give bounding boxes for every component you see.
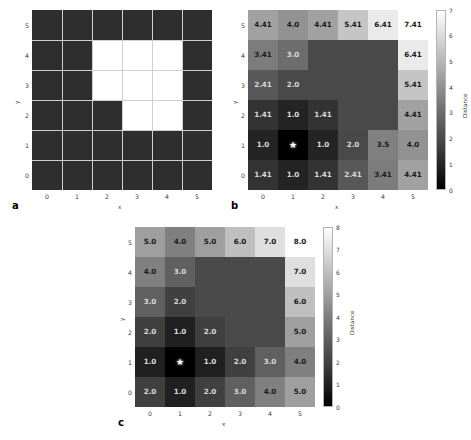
heatmap-cell: 4.0: [165, 227, 195, 257]
panel-a-xtick: 5: [190, 193, 204, 200]
colorbar-tick-label: 4: [336, 314, 340, 321]
heatmap-cell: 1.0: [165, 377, 195, 407]
cell-value-label: 1.41: [314, 111, 331, 118]
heatmap-cell-obstacle: [338, 100, 368, 130]
cell-value-label: 1.0: [257, 141, 269, 148]
cell-value-label: 1.0: [174, 328, 186, 335]
cell-value-label: 5.41: [404, 81, 421, 88]
cell-value-label: 2.0: [174, 298, 186, 305]
panel-b-xtick: 0: [256, 193, 270, 200]
heatmap-cell-obstacle: [368, 100, 398, 130]
panel-a-ytick: 2: [15, 112, 29, 119]
panel-c-colorbar-title: Distance: [349, 311, 355, 335]
heatmap-cell: 3.0: [165, 257, 195, 287]
panel-c-xtick: 0: [143, 410, 157, 417]
panel-b-ytick: 1: [231, 142, 245, 149]
colorbar-tick-label: 6: [336, 269, 340, 276]
heatmap-cell-obstacle: [308, 40, 338, 70]
cell-value-label: 5.0: [144, 238, 156, 245]
cell-value-label: 2.0: [287, 81, 299, 88]
colorbar-tick-label: 4: [449, 84, 453, 91]
colorbar-tick-label: 2: [449, 135, 453, 142]
heatmap-cell: 2.0: [225, 347, 255, 377]
heatmap-cell: 2.0: [135, 377, 165, 407]
grid-cell-obstacle: [152, 70, 182, 100]
heatmap-cell: 2.0: [338, 130, 368, 160]
heatmap-cell: 4.0: [255, 377, 285, 407]
grid-cell-free: [92, 160, 122, 190]
heatmap-cell: 2.0: [165, 287, 195, 317]
heatmap-cell: 7.0: [285, 257, 315, 287]
heatmap-cell: 3.41: [368, 160, 398, 190]
cell-value-label: 3.41: [374, 171, 391, 178]
panel-b-colorbar-gradient: [436, 10, 446, 190]
heatmap-cell: 4.0: [398, 130, 428, 160]
grid-cell-free: [62, 70, 92, 100]
colorbar-tick-label: 2: [336, 359, 340, 366]
panel-a-ylabel: y: [14, 101, 20, 104]
grid-cell-free: [182, 10, 212, 40]
heatmap-cell: 4.41: [398, 100, 428, 130]
panel-b-xtick: 4: [376, 193, 390, 200]
heatmap-cell: 5.0: [285, 317, 315, 347]
panel-a-plot-area: [32, 10, 212, 190]
panel-b-ytick: 2: [231, 112, 245, 119]
heatmap-cell: 5.41: [398, 70, 428, 100]
grid-cell-free: [62, 40, 92, 70]
grid-cell-free: [182, 160, 212, 190]
panel-a-ytick: 5: [15, 22, 29, 29]
heatmap-cell: 6.41: [398, 40, 428, 70]
cell-value-label: 4.41: [404, 171, 421, 178]
panel-a-letter: a: [12, 200, 19, 211]
grid-cell-free: [62, 100, 92, 130]
panel-a-ytick: 4: [15, 52, 29, 59]
cell-value-label: 4.41: [404, 111, 421, 118]
grid-cell-obstacle: [92, 40, 122, 70]
panel-c-xtick: 2: [203, 410, 217, 417]
grid-cell-obstacle: [152, 40, 182, 70]
cell-value-label: 2.0: [144, 328, 156, 335]
cell-value-label: 1.0: [317, 141, 329, 148]
cell-value-label: 4.0: [144, 268, 156, 275]
panel-a-ytick: 0: [15, 172, 29, 179]
cell-value-label: 7.0: [294, 268, 306, 275]
cell-value-label: 2.0: [347, 141, 359, 148]
colorbar-tick-label: 0: [336, 404, 340, 411]
heatmap-cell: 6.0: [285, 287, 315, 317]
source-star-marker: ★: [289, 141, 297, 150]
gridline-horizontal: [32, 130, 212, 131]
grid-cell-free: [152, 130, 182, 160]
grid-cell-free: [182, 40, 212, 70]
cell-value-label: 2.0: [234, 358, 246, 365]
panel-c-ytick: 3: [118, 299, 132, 306]
heatmap-cell-obstacle: [225, 287, 255, 317]
heatmap-cell: 7.41: [398, 10, 428, 40]
heatmap-cell: 3.0: [278, 40, 308, 70]
cell-value-label: 1.0: [174, 388, 186, 395]
heatmap-cell: 1.0: [278, 100, 308, 130]
gridline-vertical: [152, 10, 153, 190]
heatmap-cell: 5.0: [135, 227, 165, 257]
cell-value-label: 2.0: [144, 388, 156, 395]
cell-value-label: 3.0: [144, 298, 156, 305]
colorbar-tick-label: 5: [449, 58, 453, 65]
cell-value-label: 3.41: [254, 51, 271, 58]
panel-c-xtick: 1: [173, 410, 187, 417]
source-star-marker: ★: [176, 358, 184, 367]
panel-b-xlabel: x: [335, 204, 338, 210]
heatmap-cell: 7.0: [255, 227, 285, 257]
cell-value-label: 1.41: [254, 111, 271, 118]
cell-value-label: 4.0: [287, 21, 299, 28]
cell-value-label: 6.41: [404, 51, 421, 58]
heatmap-cell-obstacle: [255, 257, 285, 287]
panel-b-colorbar-title: Distance: [462, 94, 468, 118]
panel-a-xtick: 4: [160, 193, 174, 200]
heatmap-cell-obstacle: [338, 40, 368, 70]
grid-cell-free: [182, 130, 212, 160]
cell-value-label: 5.0: [294, 328, 306, 335]
cell-value-label: 4.0: [294, 358, 306, 365]
panel-a-xtick: 3: [130, 193, 144, 200]
cell-value-label: 2.41: [344, 171, 361, 178]
cell-value-label: 6.0: [294, 298, 306, 305]
heatmap-cell-obstacle: [368, 40, 398, 70]
